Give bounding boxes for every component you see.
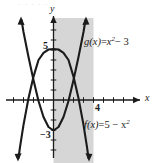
x-tick-label-4: 4 — [95, 103, 100, 113]
function-f-body-lead: 5 − x — [105, 119, 127, 130]
function-g-body-tail: − 3 — [115, 36, 129, 47]
x-axis-label: x — [145, 93, 149, 103]
coordinate-plane-svg — [0, 0, 161, 163]
function-g-name: g(x) — [84, 36, 101, 47]
function-f-exponent: 2 — [126, 118, 130, 126]
y-axis-label: y — [50, 4, 54, 14]
function-label-g: g(x)=x2− 3 — [84, 37, 129, 48]
x-axis — [6, 97, 140, 103]
y-tick-label-negative-3: −3 — [40, 130, 51, 140]
parabola-figure: · · · · · — [0, 0, 161, 163]
function-label-f: f(x)=5 − x2 — [84, 120, 130, 131]
function-f-name: f(x) — [84, 119, 99, 130]
y-tick-label-5: 5 — [43, 41, 48, 51]
